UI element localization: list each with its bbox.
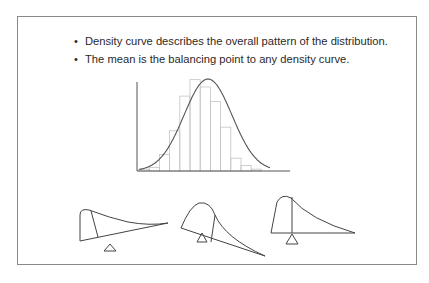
skewed-curve (271, 196, 355, 233)
histogram-bar (241, 166, 251, 171)
fulcrum-icon (286, 234, 298, 244)
seesaw-diagram-1 (80, 210, 168, 251)
median-line (211, 215, 215, 242)
skewed-curve (80, 210, 168, 241)
seesaw-diagram-3 (271, 196, 355, 244)
histogram-bar (149, 167, 159, 171)
histogram-bar (231, 158, 241, 171)
histogram-bar (210, 102, 220, 171)
figures (0, 0, 429, 283)
skewed-curve (181, 203, 265, 256)
histogram-bar (190, 80, 200, 171)
fulcrum-icon (104, 244, 116, 251)
histogram-bar (221, 127, 231, 171)
histogram-bar (180, 96, 190, 171)
seesaw-diagram-2 (181, 203, 265, 256)
histogram-bar (200, 87, 210, 171)
histogram-bars (139, 80, 261, 171)
density-curve (139, 79, 270, 170)
median-line (91, 211, 98, 237)
histogram-chart (137, 79, 290, 171)
